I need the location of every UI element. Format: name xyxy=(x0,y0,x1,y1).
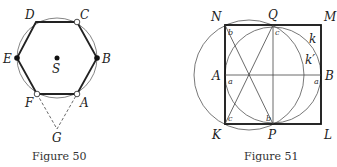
label-k-prime: k′ xyxy=(305,53,315,67)
angle-c-bottom: c xyxy=(228,114,233,123)
label-b: B xyxy=(324,69,334,83)
point-f xyxy=(34,91,40,97)
dashed-triangle xyxy=(37,94,77,129)
center-point xyxy=(55,56,60,61)
point-a xyxy=(74,91,80,97)
label-e: E xyxy=(2,52,12,66)
figure-50: D C E B S F A G Figure 50 xyxy=(2,8,111,163)
angle-b-top: b xyxy=(228,28,233,37)
label-p: P xyxy=(267,128,277,142)
label-k: K xyxy=(211,128,222,142)
figure-51: N Q M A B K P L k k′ b c a a c b Figure … xyxy=(194,8,337,163)
point-b xyxy=(94,55,100,61)
angle-a-right: a xyxy=(314,77,319,86)
figures-canvas: D C E B S F A G Figure 50 N Q M A B K P … xyxy=(0,0,337,167)
label-k-circle: k xyxy=(309,32,316,46)
caption-figure-51: Figure 51 xyxy=(244,150,299,163)
label-m: M xyxy=(323,10,337,24)
point-e xyxy=(14,55,20,61)
label-n: N xyxy=(210,10,222,24)
label-f: F xyxy=(24,96,34,110)
label-q: Q xyxy=(268,8,278,22)
label-b: B xyxy=(101,52,111,66)
label-s: S xyxy=(52,62,60,76)
label-g: G xyxy=(52,131,62,145)
point-c xyxy=(74,19,80,25)
angle-b-bottom: b xyxy=(266,114,271,123)
label-a: A xyxy=(79,96,89,110)
label-c: C xyxy=(80,8,89,22)
angle-a-left: a xyxy=(228,77,233,86)
label-l: L xyxy=(323,128,332,142)
label-d: D xyxy=(24,8,35,22)
caption-figure-50: Figure 50 xyxy=(32,150,87,163)
angle-c-top: c xyxy=(275,28,280,37)
label-a: A xyxy=(211,69,221,83)
